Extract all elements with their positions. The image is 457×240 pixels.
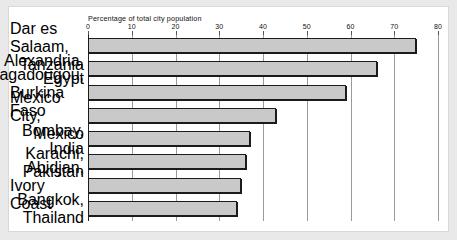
category-label: Bangkok,Thailand	[10, 198, 84, 221]
bar-row	[88, 175, 438, 198]
x-tick-label-80: 80	[434, 23, 442, 30]
category-city: Abidjan,	[26, 159, 84, 177]
bar	[88, 38, 416, 53]
bar-row	[88, 35, 438, 58]
category-city: Dar es Salaam,	[10, 20, 84, 56]
x-tick-label-70: 70	[390, 23, 398, 30]
category-city: Bangkok,	[17, 191, 84, 209]
x-tick-label-20: 20	[172, 23, 180, 30]
axis-title: Percentage of total city population	[88, 14, 202, 23]
bar-row	[88, 151, 438, 174]
x-tick-label-10: 10	[128, 23, 136, 30]
x-tick-label-50: 50	[303, 23, 311, 30]
gridline-80	[438, 35, 439, 221]
bar	[88, 131, 250, 146]
bar	[88, 201, 237, 216]
page-background: Percentage of total city population 0102…	[0, 0, 457, 240]
x-tick-label-0: 0	[86, 23, 90, 30]
bar	[88, 154, 246, 169]
x-tick-label-40: 40	[259, 23, 267, 30]
bar	[88, 108, 276, 123]
bar	[88, 61, 377, 76]
bar-chart: Percentage of total city population 0102…	[8, 6, 449, 232]
category-country: Thailand	[23, 209, 84, 227]
bar-row	[88, 128, 438, 151]
x-tick-label-30: 30	[215, 23, 223, 30]
plot-area	[88, 35, 438, 221]
bar-row	[88, 198, 438, 221]
bar	[88, 178, 241, 193]
category-city: Ouagadougou,	[0, 66, 84, 84]
bar-row	[88, 82, 438, 105]
x-tick-label-60: 60	[347, 23, 355, 30]
bar	[88, 85, 346, 100]
bar-row	[88, 105, 438, 128]
category-city: Bombay,	[22, 122, 84, 140]
figure-card: Percentage of total city population 0102…	[8, 6, 449, 232]
bar-row	[88, 58, 438, 81]
category-city: Mexico City,	[10, 89, 84, 125]
category-labels: Dar es Salaam,TanzaniaAlexandria,EgyptOu…	[10, 35, 84, 221]
